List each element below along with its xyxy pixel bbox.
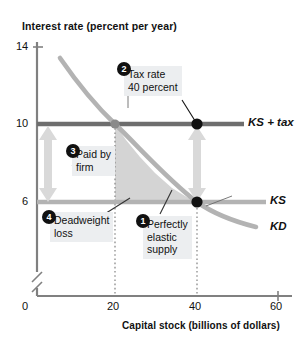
x-tick-label-60: 60 [270, 300, 282, 312]
x-axis-title: Capital stock (billions of dollars) [122, 320, 280, 331]
y-tick-label-14: 14 [16, 40, 28, 52]
callout-badge-2: 2 [117, 62, 131, 76]
y-tick-label-10: 10 [16, 117, 28, 129]
callout-badge-4: 4 [42, 210, 56, 224]
callout-tax-rate: Tax rate 40 percent [124, 66, 182, 96]
callout-perfectly-elastic-supply: Perfectly elastic supply [143, 216, 192, 259]
callout-badge-3: 3 [66, 144, 80, 158]
x-tick-label-40: 40 [189, 300, 201, 312]
page-title: Interest rate (percent per year) [22, 20, 177, 32]
chart-canvas [0, 0, 303, 345]
leader-line-callout-2 [182, 100, 197, 124]
y-tick-label-6: 6 [22, 195, 28, 207]
curve-label-ks: KS [270, 194, 286, 206]
callout-badge-1: 1 [136, 214, 150, 228]
marker-equilibrium-no-tax [191, 196, 202, 207]
tax-wedge-arrow-left [39, 126, 57, 202]
origin-label: 0 [22, 300, 28, 312]
curve-label-ks-plus-tax: KS + tax [248, 116, 294, 128]
curve-label-kd: KD [270, 220, 287, 232]
tax-wedge-arrow-right [188, 126, 206, 202]
axis-break-slash-upper [32, 272, 42, 282]
callout-deadweight-loss: Deadweight loss [50, 212, 113, 242]
x-tick-label-20: 20 [107, 300, 119, 312]
marker-equilibrium-with-tax [110, 119, 119, 128]
chart-figure: Interest rate (percent per year) Capital… [0, 0, 303, 345]
